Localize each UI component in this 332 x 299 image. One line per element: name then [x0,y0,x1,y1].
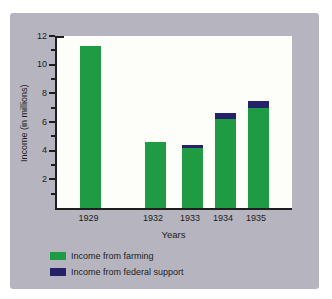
y-major-tick-10 [49,64,55,66]
bar-1935-federal-segment [248,101,269,108]
plot-area: 24681012 [55,36,292,210]
y-major-tick-6 [49,121,55,123]
legend-item-farming: Income from farming [50,248,184,264]
bar-1933 [182,145,203,208]
bar-1929-farming-segment [80,46,101,208]
bar-1935-farming-segment [248,108,269,208]
legend-label-farming: Income from farming [71,251,154,261]
y-minor-tick-7 [51,107,55,109]
farming-swatch-icon [50,252,66,260]
y-tick-label-10: 10 [30,59,47,70]
y-major-tick-2 [49,178,55,180]
y-tick-label-12: 12 [30,31,47,42]
y-major-tick-4 [49,150,55,152]
y-minor-tick-9 [51,78,55,80]
y-major-tick-8 [49,92,55,94]
y-tick-label-6: 6 [30,117,47,128]
federal-swatch-icon [50,268,66,276]
legend-item-federal: Income from federal support [50,264,184,280]
bar-1933-farming-segment [182,148,203,208]
y-minor-tick-5 [51,135,55,137]
y-axis-top-tick [57,36,64,38]
chart-card: Income (in millions) 24681012 Years Inco… [10,13,319,289]
bar-1932-farming-segment [145,142,166,208]
y-tick-label-4: 4 [30,145,47,156]
page: { "chart_data": { "type": "bar", "stacke… [0,0,332,299]
y-minor-tick-1 [51,193,55,195]
y-tick-label-8: 8 [30,88,47,99]
y-major-tick-12 [49,35,55,37]
x-tick-label-1929: 1929 [72,213,106,223]
bar-1934-farming-segment [215,119,236,208]
y-minor-tick-3 [51,164,55,166]
bar-1932 [145,142,166,208]
x-tick-label-1933: 1933 [173,213,207,223]
bar-1929 [80,46,101,208]
y-minor-tick-11 [51,49,55,51]
y-tick-label-2: 2 [30,174,47,185]
x-tick-label-1935: 1935 [239,213,273,223]
x-tick-label-1934: 1934 [206,213,240,223]
x-tick-label-1932: 1932 [136,213,170,223]
x-axis-title: Years [55,229,292,240]
legend-label-federal: Income from federal support [71,267,184,277]
bar-1934 [215,113,236,208]
bar-1935 [248,101,269,208]
legend: Income from farming Income from federal … [50,248,184,280]
